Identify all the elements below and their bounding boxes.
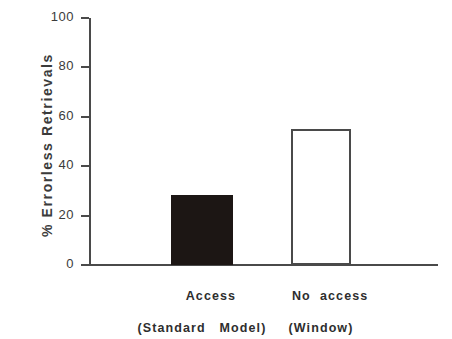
x-category-label-no-access: No access (Window) xyxy=(261,272,381,339)
x-category-label-access: Access (Standard Model) xyxy=(132,272,272,339)
y-tick-label-100: 100 xyxy=(14,9,74,24)
x-category-label-no-access-line1: No access xyxy=(292,289,368,303)
y-tick-label-20: 20 xyxy=(14,207,74,222)
y-tick-mark-0 xyxy=(81,264,89,266)
y-tick-label-40: 40 xyxy=(14,157,74,172)
y-tick-label-60: 60 xyxy=(14,108,74,123)
y-tick-label-80: 80 xyxy=(14,58,74,73)
y-axis-line xyxy=(89,18,91,266)
x-axis-line xyxy=(89,264,438,266)
x-category-label-access-line1: Access xyxy=(186,289,236,303)
x-category-sublabel-access: (Standard Model) xyxy=(132,320,272,336)
y-tick-label-0: 0 xyxy=(14,256,74,271)
y-tick-mark-20 xyxy=(81,215,89,217)
x-category-sublabel-no-access: (Window) xyxy=(261,320,381,336)
y-tick-mark-80 xyxy=(81,66,89,68)
bar-access xyxy=(171,195,233,265)
y-tick-mark-40 xyxy=(81,165,89,167)
y-tick-mark-100 xyxy=(81,17,89,19)
bar-no-access xyxy=(291,129,351,265)
y-tick-mark-60 xyxy=(81,116,89,118)
